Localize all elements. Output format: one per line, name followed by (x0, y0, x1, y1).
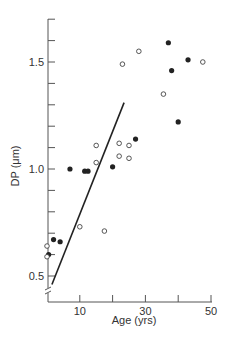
filled-data-point (110, 164, 115, 169)
filled-data-point (51, 237, 56, 242)
open-data-point (45, 244, 50, 249)
open-data-point (161, 92, 166, 97)
scatter-chart: 0.51.01.5103050 Age (yrs) DP (μm) (0, 0, 232, 341)
filled-data-point (67, 166, 72, 171)
filled-data-point (176, 119, 181, 124)
open-data-point (127, 156, 132, 161)
open-data-point (127, 143, 132, 148)
data-points (45, 40, 205, 259)
open-data-point (45, 254, 50, 259)
x-axis-label: Age (yrs) (112, 314, 157, 326)
open-data-point (78, 224, 83, 229)
tick-labels: 0.51.01.5103050 (29, 56, 217, 317)
open-data-point (201, 60, 206, 65)
filled-data-point (85, 169, 90, 174)
regression-line-segment (52, 103, 124, 285)
y-tick-label: 1.5 (29, 56, 44, 68)
filled-data-point (166, 40, 171, 45)
axis-break-mark (45, 287, 51, 294)
y-axis-label: DP (μm) (9, 146, 21, 187)
x-tick-label: 50 (205, 305, 217, 317)
filled-data-point (185, 57, 190, 62)
filled-data-point (58, 239, 63, 244)
open-data-point (94, 160, 99, 165)
regression-line (52, 103, 124, 285)
filled-data-point (133, 136, 138, 141)
y-tick-label: 1.0 (29, 163, 44, 175)
open-data-point (137, 49, 142, 54)
open-data-point (120, 62, 125, 67)
x-tick-label: 10 (74, 305, 86, 317)
y-tick-label: 0.5 (29, 270, 44, 282)
open-data-point (102, 229, 107, 234)
open-data-point (94, 143, 99, 148)
filled-data-point (169, 68, 174, 73)
open-data-point (117, 154, 122, 159)
open-data-point (117, 141, 122, 146)
